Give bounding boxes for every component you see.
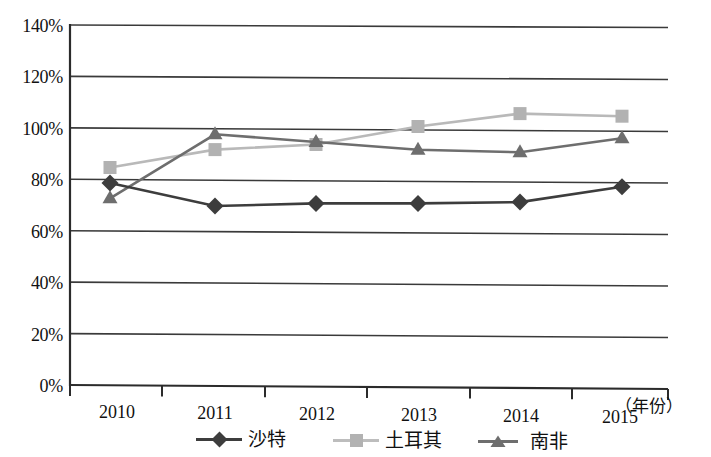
series-south-africa	[103, 126, 630, 203]
legend-label-south-africa: 南非	[530, 432, 568, 451]
marker-turkey-2011	[209, 143, 222, 156]
legend-marker-saudi	[196, 429, 242, 449]
chart-legend: 沙特 土耳其 南非	[0, 426, 711, 456]
series-turkey-line	[110, 114, 622, 168]
diamond-icon	[210, 430, 229, 449]
marker-saudi-2012	[308, 195, 325, 212]
marker-turkey-2015	[616, 110, 629, 123]
gridline-80	[70, 179, 668, 183]
legend-label-saudi: 沙特	[248, 430, 286, 449]
marker-turkey-2013	[412, 120, 425, 133]
marker-saudi-2013	[410, 195, 427, 212]
triangle-icon	[489, 433, 507, 449]
series-south-africa-line	[110, 134, 622, 198]
marker-turkey-2010	[104, 161, 117, 174]
legend-item-turkey: 土耳其	[333, 427, 442, 453]
x-axis-tick-labels: 2010 2011 2012 2013 2014 2015	[0, 392, 711, 426]
x-tick-label-2013: 2013	[401, 406, 437, 424]
x-tick-label-2010: 2010	[99, 403, 135, 421]
x-axis-unit-label: （年份）	[615, 398, 683, 415]
x-tick-label-2011: 2011	[197, 404, 232, 422]
gridline-60	[70, 231, 668, 235]
gridline-120	[70, 76, 668, 79]
gridline-140	[70, 25, 668, 28]
plot-area	[0, 0, 711, 457]
marker-saudi-2011	[207, 198, 224, 215]
marker-saudi-2014	[512, 194, 529, 211]
legend-label-turkey: 土耳其	[385, 431, 442, 450]
legend-item-saudi: 沙特	[196, 426, 286, 452]
marker-saudi-2010	[102, 174, 119, 191]
legend-marker-south-africa	[478, 431, 518, 451]
marker-south-africa-2015	[615, 130, 630, 143]
gridline-100	[70, 128, 668, 132]
x-tick-label-2012: 2012	[299, 405, 335, 423]
series-south-africa-markers	[103, 126, 630, 203]
series-turkey-markers	[104, 107, 629, 174]
gridlines	[70, 25, 668, 338]
legend-item-south-africa: 南非	[478, 428, 568, 454]
x-axis-line	[70, 385, 668, 389]
series-saudi-line	[110, 183, 622, 206]
legend-marker-turkey	[333, 430, 379, 450]
marker-saudi-2015	[614, 178, 631, 195]
marker-south-africa-2010	[103, 190, 118, 203]
line-chart: 140% 120% 100% 80% 60% 40% 20% 0%	[0, 0, 711, 457]
x-tick-label-2014: 2014	[503, 407, 539, 425]
gridline-20	[70, 334, 668, 338]
gridline-40	[70, 282, 668, 286]
square-icon	[348, 432, 365, 449]
marker-turkey-2014	[514, 107, 527, 120]
series-turkey	[104, 107, 629, 174]
